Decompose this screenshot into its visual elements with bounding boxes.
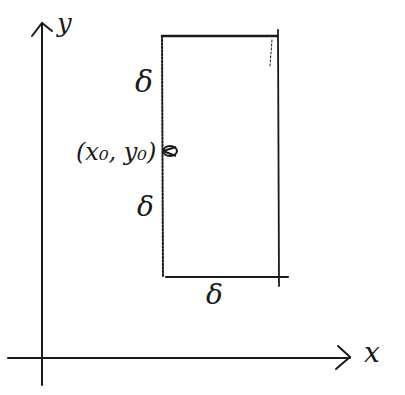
delta-label-bottom: δ [206,278,223,311]
x-axis [8,346,350,369]
point-label: (x₀, y₀) [76,138,156,166]
point-marker-icon [163,146,177,156]
x-axis-label: x [364,336,380,369]
diagram-canvas [0,0,405,395]
delta-label-left-upper: δ [135,64,153,99]
delta-label-left-lower: δ [137,190,154,223]
y-axis-label: y [57,8,72,38]
y-axis [32,23,52,385]
delta-rectangle [162,30,288,286]
